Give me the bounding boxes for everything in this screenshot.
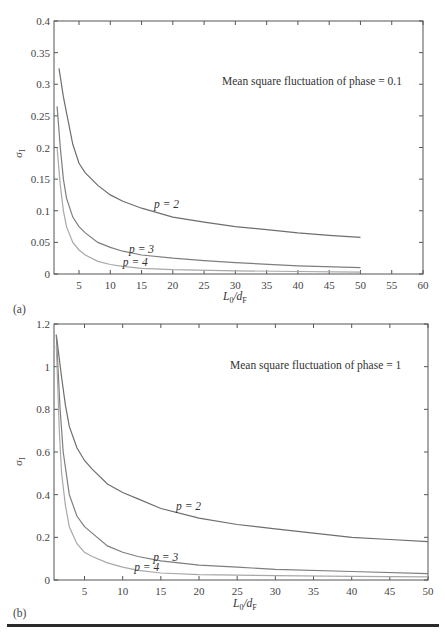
y-tick-label: 0.6 [36, 446, 50, 458]
x-tick-label: 35 [308, 585, 320, 597]
panel-label-b: (b) [13, 607, 27, 620]
x-tick-label: 55 [386, 279, 398, 291]
x-axis-label-a: L0/dF [222, 290, 247, 305]
series-line-p4 [56, 345, 428, 577]
series-line-p4 [57, 148, 360, 273]
y-axis-ticks-a: 00.050.10.150.20.250.30.350.4 [31, 15, 423, 280]
bottom-rule [7, 624, 439, 627]
series-label-p4: p = 4 [133, 561, 159, 574]
x-tick-label: 40 [346, 585, 358, 597]
x-tick-label: 15 [155, 585, 167, 597]
x-axis-label-b: L0/dF [232, 597, 257, 612]
y-tick-label: 0.4 [36, 489, 50, 501]
series-line-p2 [59, 68, 361, 237]
y-tick-label: 1.2 [36, 318, 50, 330]
annotation-b: Mean square fluctuation of phase = 1 [230, 359, 402, 372]
y-tick-label: 0.25 [31, 110, 51, 122]
y-tick-label: 0 [45, 574, 51, 586]
y-tick-label: 0.35 [31, 47, 51, 59]
y-tick-label: 0.4 [36, 15, 50, 27]
series-labels-a: p = 2p = 3p = 4 [122, 198, 180, 270]
x-tick-label: 20 [194, 585, 206, 597]
series-lines-a [57, 68, 360, 272]
y-tick-label: 0.8 [36, 403, 50, 415]
y-tick-label: 0.3 [36, 78, 50, 90]
y-tick-label: 0.05 [31, 236, 51, 248]
x-tick-label: 5 [82, 585, 88, 597]
series-lines-b [56, 335, 428, 577]
y-tick-label: 0.15 [31, 173, 51, 185]
x-tick-label: 30 [270, 585, 282, 597]
series-line-p3 [57, 106, 360, 267]
x-tick-label: 60 [418, 279, 430, 291]
y-tick-label: 0.2 [36, 142, 50, 154]
series-label-p2: p = 2 [153, 198, 179, 211]
x-tick-label: 5 [76, 279, 82, 291]
x-tick-label: 20 [167, 279, 179, 291]
series-label-p2: p = 2 [175, 500, 201, 513]
x-tick-label: 25 [232, 585, 244, 597]
panel-label-a: (a) [13, 303, 26, 316]
x-tick-label: 10 [117, 585, 129, 597]
y-axis-label-b: σI [12, 457, 27, 466]
x-tick-label: 25 [199, 279, 211, 291]
x-tick-label: 45 [384, 585, 396, 597]
y-tick-label: 1 [45, 361, 51, 373]
y-axis-label-a: σI [12, 149, 27, 158]
figure: 00.050.10.150.20.250.30.350.4 5101520253… [0, 0, 445, 634]
plot-frame-a [54, 21, 423, 274]
x-tick-label: 50 [423, 585, 435, 597]
y-tick-label: 0 [45, 268, 51, 280]
series-labels-b: p = 2p = 3p = 4 [133, 500, 201, 575]
x-tick-label: 40 [292, 279, 304, 291]
x-tick-label: 10 [105, 279, 117, 291]
chart-a: 00.050.10.150.20.250.30.350.4 5101520253… [12, 15, 429, 316]
x-tick-label: 45 [324, 279, 336, 291]
y-tick-label: 0.2 [36, 531, 50, 543]
annotation-a: Mean square fluctuation of phase = 0.1 [222, 75, 402, 88]
chart-b: 00.20.40.60.811.2 5101520253035404550 p … [12, 318, 434, 620]
x-tick-label: 50 [355, 279, 367, 291]
series-label-p4: p = 4 [122, 256, 148, 269]
y-tick-label: 0.1 [36, 205, 50, 217]
series-label-p3: p = 3 [128, 243, 154, 256]
x-tick-label: 15 [136, 279, 148, 291]
x-tick-label: 35 [261, 279, 273, 291]
